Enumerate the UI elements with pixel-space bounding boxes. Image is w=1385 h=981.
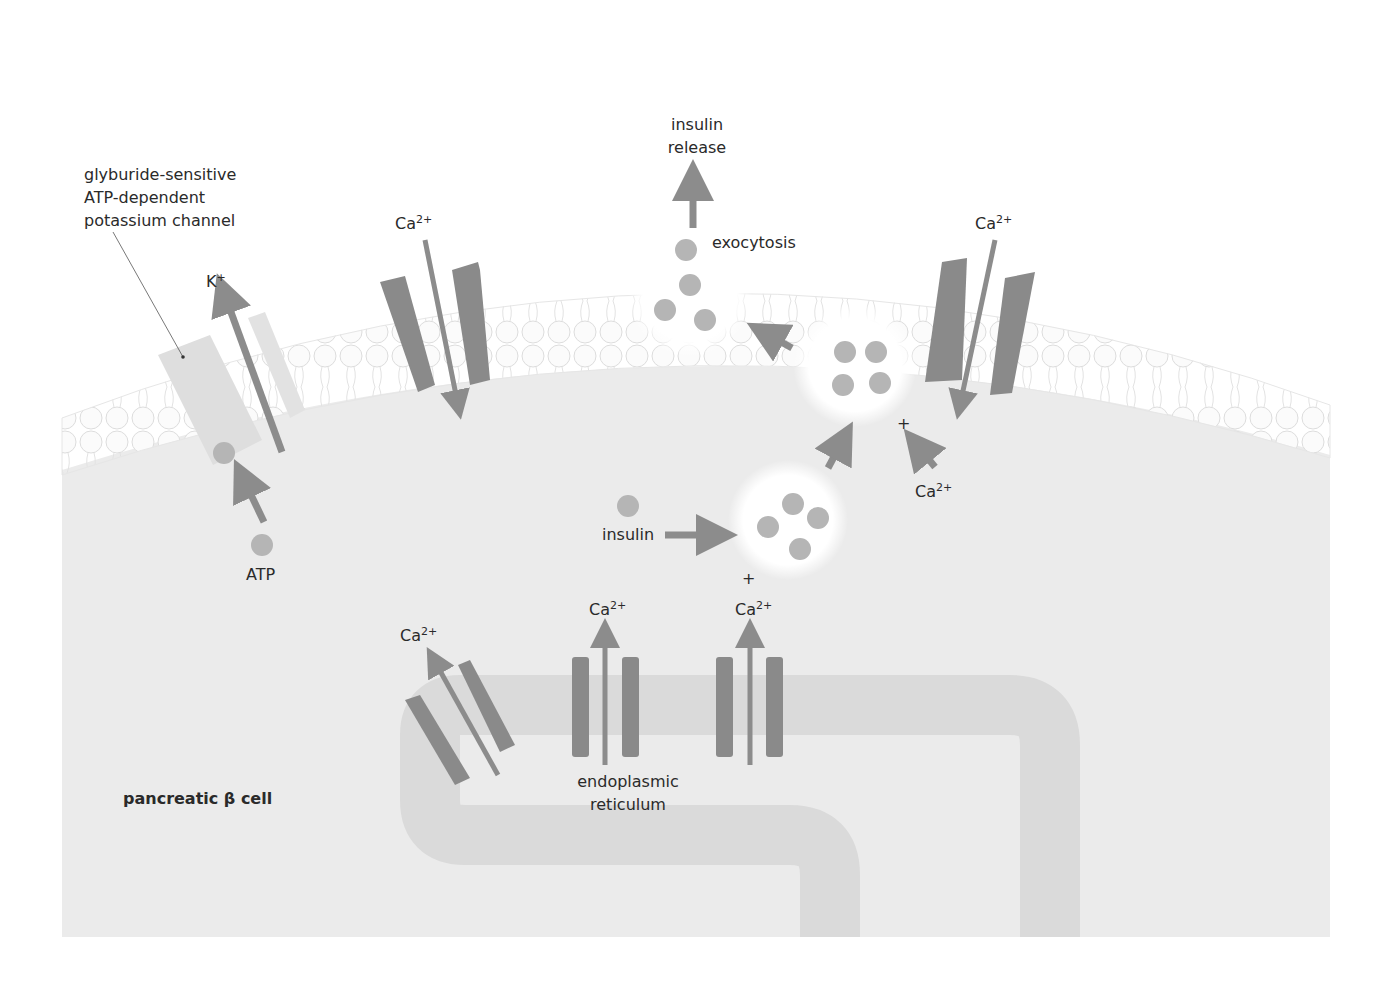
channel-label-line-2: ATP-dependent (84, 186, 236, 209)
cell-title: pancreatic β cell (123, 787, 272, 810)
channel-label-line-3: potassium channel (84, 209, 236, 232)
calcium-label-er-middle: Ca2+ (589, 598, 626, 621)
calcium-label-right: Ca2+ (975, 212, 1012, 235)
insulin-label: insulin (602, 523, 654, 546)
potassium-base: K (206, 272, 217, 291)
calcium-label-cytosol: Ca2+ (915, 480, 952, 503)
calcium-charge: 2+ (421, 625, 437, 638)
calcium-label-er-right: Ca2+ (735, 598, 772, 621)
channel-label-line-1: glyburide-sensitive (84, 163, 236, 186)
channel-label: glyburide-sensitive ATP-dependent potass… (84, 163, 236, 232)
calcium-base: Ca (395, 214, 416, 233)
plus-sign-right: + (897, 412, 910, 435)
er-label-line-2: reticulum (577, 793, 679, 816)
insulin-release-line-2: release (668, 136, 726, 159)
calcium-charge: 2+ (756, 599, 772, 612)
calcium-charge: 2+ (610, 599, 626, 612)
calcium-base: Ca (735, 600, 756, 619)
calcium-charge: 2+ (416, 213, 432, 226)
atp-label: ATP (246, 563, 275, 586)
insulin-release-label: insulin release (668, 113, 726, 159)
potassium-label: K+ (206, 270, 226, 293)
er-label-line-1: endoplasmic (577, 770, 679, 793)
insulin-release-line-1: insulin (668, 113, 726, 136)
calcium-label-er-left: Ca2+ (400, 624, 437, 647)
potassium-charge: + (217, 271, 226, 284)
er-label: endoplasmic reticulum (577, 770, 679, 816)
calcium-label-left: Ca2+ (395, 212, 432, 235)
calcium-base: Ca (915, 482, 936, 501)
plus-sign-left: + (742, 567, 755, 590)
calcium-base: Ca (589, 600, 610, 619)
exocytosis-label: exocytosis (712, 231, 796, 254)
calcium-charge: 2+ (996, 213, 1012, 226)
calcium-base: Ca (975, 214, 996, 233)
calcium-base: Ca (400, 626, 421, 645)
calcium-charge: 2+ (936, 481, 952, 494)
exocytosis-vesicle (628, 180, 752, 357)
